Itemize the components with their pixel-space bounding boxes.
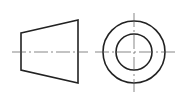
trapezoid-view — [12, 20, 88, 83]
circle-view — [95, 13, 175, 92]
diagram-svg — [0, 0, 185, 102]
trapezoid-outline — [21, 20, 78, 83]
projection-symbol-diagram — [0, 0, 185, 102]
